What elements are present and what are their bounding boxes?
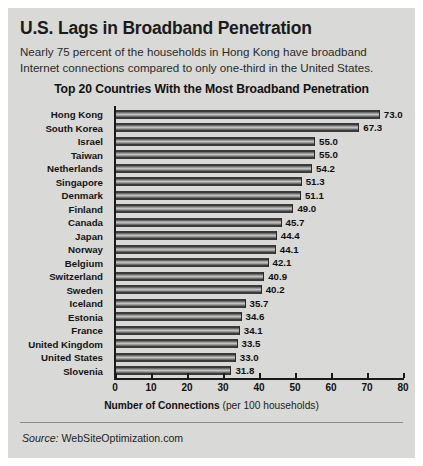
bar-row: 34.6 <box>116 311 404 325</box>
bar-value-label: 49.0 <box>297 202 316 216</box>
bar-row: 44.4 <box>116 230 404 244</box>
category-label: France <box>8 324 108 338</box>
bar-value-label: 51.1 <box>305 189 324 203</box>
bar-row: 42.1 <box>116 257 404 271</box>
page-title: U.S. Lags in Broadband Penetration <box>20 18 312 39</box>
bar <box>116 272 264 281</box>
x-axis-title-rest: (per 100 households) <box>220 400 319 411</box>
bar-row: 51.3 <box>116 176 404 190</box>
bar <box>116 366 231 375</box>
divider <box>20 422 403 423</box>
bar <box>116 299 246 308</box>
bar <box>116 191 301 200</box>
bar-row: 33.5 <box>116 338 404 352</box>
bar <box>116 326 240 335</box>
x-axis-tick <box>223 373 225 378</box>
x-axis-tick <box>259 373 261 378</box>
bar-row: 51.1 <box>116 189 404 203</box>
bar <box>116 339 238 348</box>
x-axis-tick-label: 0 <box>112 382 118 393</box>
bar-value-label: 73.0 <box>384 108 403 122</box>
bar-row: 34.1 <box>116 324 404 338</box>
category-label: Slovenia <box>8 365 108 379</box>
bar <box>116 218 282 227</box>
bar <box>116 164 312 173</box>
category-label: Finland <box>8 203 108 217</box>
category-label: Denmark <box>8 189 108 203</box>
bar-value-label: 67.3 <box>363 121 382 135</box>
x-axis-tick-label: 50 <box>289 382 300 393</box>
bar-row: 67.3 <box>116 122 404 136</box>
category-axis-labels: Hong KongSouth KoreaIsraelTaiwanNetherla… <box>8 108 108 378</box>
bar-value-label: 42.1 <box>273 256 292 270</box>
bar-row: 49.0 <box>116 203 404 217</box>
bar-row: 40.9 <box>116 270 404 284</box>
bar-value-label: 55.0 <box>319 135 338 149</box>
bar-row: 54.2 <box>116 162 404 176</box>
bar <box>116 123 359 132</box>
bar <box>116 204 293 213</box>
bar-value-label: 40.2 <box>266 283 285 297</box>
bar-row: 33.0 <box>116 351 404 365</box>
bar-value-label: 44.1 <box>280 243 299 257</box>
bar <box>116 285 262 294</box>
chart-title: Top 20 Countries With the Most Broadband… <box>8 82 415 96</box>
bar-value-label: 54.2 <box>316 162 335 176</box>
bar-value-label: 34.6 <box>246 310 265 324</box>
category-label: Canada <box>8 216 108 230</box>
category-label: Japan <box>8 230 108 244</box>
bar-value-label: 45.7 <box>286 216 305 230</box>
source-value: WebSiteOptimization.com <box>61 432 183 444</box>
x-axis-title: Number of Connections (per 100 household… <box>8 400 415 411</box>
bar-value-label: 55.0 <box>319 148 338 162</box>
bar-row: 35.7 <box>116 297 404 311</box>
category-label: Hong Kong <box>8 108 108 122</box>
bar-row: 45.7 <box>116 216 404 230</box>
category-label: Taiwan <box>8 149 108 163</box>
x-axis-tick-label: 30 <box>217 382 228 393</box>
x-axis-line <box>114 378 404 380</box>
bar <box>116 258 269 267</box>
category-label: United States <box>8 351 108 365</box>
x-axis-tick-label: 70 <box>361 382 372 393</box>
x-axis-tick-label: 80 <box>397 382 408 393</box>
bar-value-label: 34.1 <box>244 324 263 338</box>
summary-deck: Nearly 75 percent of the households in H… <box>20 44 408 75</box>
category-label: Estonia <box>8 311 108 325</box>
bar <box>116 150 315 159</box>
category-label: United Kingdom <box>8 338 108 352</box>
x-axis-title-bold: Number of Connections <box>104 400 219 411</box>
bar <box>116 353 236 362</box>
category-label: Singapore <box>8 176 108 190</box>
bar-value-label: 35.7 <box>250 297 269 311</box>
bar-series: 73.067.355.055.054.251.351.149.045.744.4… <box>116 108 404 378</box>
source-line: Source: WebSiteOptimization.com <box>22 432 183 444</box>
infographic-card: U.S. Lags in Broadband Penetration Nearl… <box>8 8 415 458</box>
bar-row: 40.2 <box>116 284 404 298</box>
category-label: Netherlands <box>8 162 108 176</box>
category-label: Switzerland <box>8 270 108 284</box>
bar-row: 73.0 <box>116 108 404 122</box>
category-label: Belgium <box>8 257 108 271</box>
x-axis-tick <box>115 373 117 378</box>
category-label: Norway <box>8 243 108 257</box>
bar-value-label: 33.5 <box>242 337 261 351</box>
x-axis-tick <box>151 373 153 378</box>
category-label: Sweden <box>8 284 108 298</box>
bar-value-label: 40.9 <box>268 270 287 284</box>
x-axis-tick <box>403 373 405 378</box>
x-axis-tick <box>295 373 297 378</box>
bar <box>116 137 315 146</box>
category-label: Israel <box>8 135 108 149</box>
bar-value-label: 33.0 <box>240 351 259 365</box>
bar <box>116 312 242 321</box>
bar-value-label: 51.3 <box>306 175 325 189</box>
bar <box>116 110 380 119</box>
x-axis-tick <box>367 373 369 378</box>
plot-area: 73.067.355.055.054.251.351.149.045.744.4… <box>114 106 404 398</box>
category-label: Iceland <box>8 297 108 311</box>
bar-row: 55.0 <box>116 149 404 163</box>
category-label: South Korea <box>8 122 108 136</box>
bar <box>116 245 276 254</box>
x-axis-tick-label: 20 <box>181 382 192 393</box>
